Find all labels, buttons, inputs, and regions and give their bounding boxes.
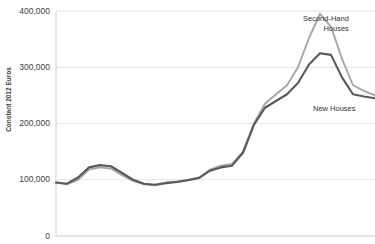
series-label-new-houses: New Houses <box>313 104 356 114</box>
series-label-second-hand-line2: Houses <box>303 24 349 34</box>
y-tick-300000: 300,000 <box>4 62 50 72</box>
chart-container: Constant 2012 Euros 400,000 300,000 200,… <box>0 0 375 244</box>
y-tick-0: 0 <box>4 231 50 241</box>
gridlines <box>56 11 375 236</box>
series-lines <box>56 14 375 186</box>
y-tick-100000: 100,000 <box>4 174 50 184</box>
chart-svg <box>56 11 375 236</box>
series-label-second-hand-houses: Second-Hand Houses <box>303 14 349 34</box>
y-axis-tick-labels: 400,000 300,000 200,000 100,000 0 <box>0 0 50 244</box>
series-line-second-hand-houses <box>56 14 375 186</box>
y-tick-400000: 400,000 <box>4 6 50 16</box>
clipped-chart-title <box>0 0 375 2</box>
y-tick-200000: 200,000 <box>4 118 50 128</box>
series-label-second-hand-line1: Second-Hand <box>303 14 349 24</box>
series-line-new-houses <box>56 53 375 185</box>
plot-area <box>56 11 375 236</box>
